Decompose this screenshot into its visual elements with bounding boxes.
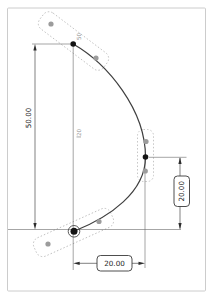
arrow-right-icon bbox=[139, 262, 146, 265]
sketch-canvas: 50.00 20.00 20.00 bbox=[0, 0, 213, 299]
dimension-right-vertical[interactable]: 20.00 bbox=[174, 157, 190, 229]
dimension-value-20-right[interactable]: 20.00 bbox=[177, 181, 186, 202]
spline-point-middle[interactable] bbox=[143, 154, 149, 160]
technical-drawing: 50.00 20.00 20.00 bbox=[0, 0, 213, 299]
arrow-up-icon bbox=[178, 157, 181, 164]
point-label-middle-tick bbox=[77, 137, 82, 138]
spline-points bbox=[68, 41, 148, 237]
dimension-left-vertical[interactable]: 50.00 bbox=[24, 44, 37, 230]
arrow-up-icon bbox=[33, 44, 36, 51]
handle-point[interactable] bbox=[48, 21, 53, 26]
handle-point[interactable] bbox=[143, 168, 148, 173]
handle-point[interactable] bbox=[45, 241, 50, 246]
handle-points bbox=[45, 21, 148, 246]
point-label-middle: 20 bbox=[76, 128, 82, 136]
arrow-left-icon bbox=[73, 262, 80, 265]
arrow-down-icon bbox=[33, 223, 36, 230]
handle-point[interactable] bbox=[143, 139, 148, 144]
handle-point[interactable] bbox=[93, 55, 98, 60]
handle-point[interactable] bbox=[96, 219, 101, 224]
spline-point-bottom-origin[interactable] bbox=[71, 228, 78, 235]
arrow-down-icon bbox=[178, 223, 181, 230]
page-frame bbox=[8, 8, 206, 291]
spline-point-top[interactable] bbox=[70, 41, 76, 47]
dimension-bottom-horizontal[interactable]: 20.00 bbox=[73, 256, 145, 272]
dimension-value-50[interactable]: 50.00 bbox=[24, 107, 33, 128]
dimension-value-20-bottom[interactable]: 20.00 bbox=[104, 259, 125, 268]
spline-curve[interactable] bbox=[73, 44, 145, 231]
point-label-top: 50 bbox=[76, 32, 82, 40]
spline-handles bbox=[31, 9, 153, 259]
